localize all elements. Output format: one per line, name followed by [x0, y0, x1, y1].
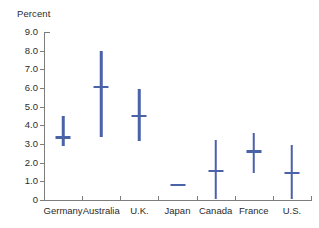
x-axis-tick	[44, 196, 45, 201]
y-axis-tick-label-text: 9.0	[12, 26, 38, 37]
x-axis-tick	[82, 196, 83, 201]
y-axis-tick-label-text: 8.0	[12, 45, 38, 56]
y-axis-tick-label: 3.0	[10, 138, 38, 149]
y-axis-tick-label: 0	[10, 194, 38, 205]
y-axis-tick	[40, 107, 45, 108]
y-axis-tick-label-text: 5.0	[12, 101, 38, 112]
y-axis-tick-label: 8.0	[10, 45, 38, 56]
midpoint-mark-germany	[56, 136, 71, 139]
range-bar-france	[253, 133, 256, 173]
x-axis-tick	[273, 196, 274, 201]
range-bar-germany	[62, 116, 65, 146]
y-axis-tick-label: 5.0	[10, 101, 38, 112]
x-axis-category-label: Canada	[199, 205, 232, 216]
midpoint-mark-france	[246, 150, 261, 153]
y-axis-tick-label: 1.0	[10, 175, 38, 186]
y-axis-tick	[40, 125, 45, 126]
midpoint-mark-us	[284, 172, 299, 175]
y-axis-title: Percent	[17, 8, 50, 19]
y-axis-tick-label-text: 0	[12, 194, 38, 205]
y-axis-tick-label-text: 4.0	[12, 119, 38, 130]
y-axis-tick	[40, 144, 45, 145]
x-axis-tick	[120, 196, 121, 201]
x-axis-tick	[197, 196, 198, 201]
midpoint-mark-canada	[208, 170, 223, 173]
x-axis-category-label: Germany	[44, 205, 83, 216]
x-axis-category-label: Japan	[165, 205, 191, 216]
y-axis-line	[44, 32, 45, 201]
y-axis-tick	[40, 51, 45, 52]
x-axis-tick	[158, 196, 159, 201]
y-axis-tick-label-text: 1.0	[12, 175, 38, 186]
y-axis-tick-label-text: 6.0	[12, 82, 38, 93]
y-axis-tick-label: 4.0	[10, 119, 38, 130]
y-axis-tick-label-text: 7.0	[12, 63, 38, 74]
range-bar-australia	[100, 51, 103, 137]
y-axis-tick-label: 7.0	[10, 63, 38, 74]
x-axis-category-label: Australia	[83, 205, 120, 216]
x-axis-category-label: U.S.	[283, 205, 301, 216]
y-axis-tick	[40, 69, 45, 70]
y-axis-tick	[40, 181, 45, 182]
y-axis-tick	[44, 32, 50, 33]
x-axis-tick	[311, 196, 312, 201]
y-axis-tick	[40, 163, 45, 164]
y-axis-tick-label: 2.0	[10, 157, 38, 168]
midpoint-mark-uk	[132, 115, 147, 118]
x-axis-category-label: U.K.	[130, 205, 148, 216]
x-axis-category-label: France	[239, 205, 269, 216]
y-axis-tick-label: 9.0	[10, 26, 38, 37]
y-axis-tick-label-text: 3.0	[12, 138, 38, 149]
chart-screenshot: Percent 9.08.07.06.05.04.03.02.01.00 Ger…	[0, 0, 319, 228]
y-axis-tick-label: 6.0	[10, 82, 38, 93]
x-axis-line	[44, 200, 311, 201]
midpoint-mark-japan	[170, 184, 185, 187]
y-axis-tick	[40, 88, 45, 89]
x-axis-tick	[235, 196, 236, 201]
y-axis-tick-label-text: 2.0	[12, 157, 38, 168]
midpoint-mark-australia	[94, 86, 109, 89]
range-bar-chart: Percent 9.08.07.06.05.04.03.02.01.00 Ger…	[0, 0, 319, 228]
